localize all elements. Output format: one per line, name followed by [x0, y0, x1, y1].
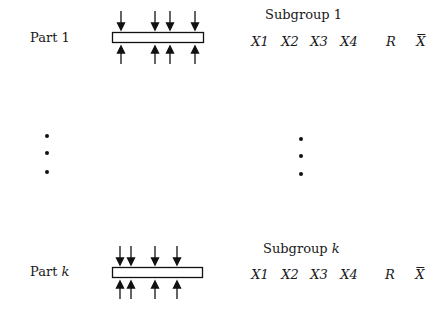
subgroup-k-col-range: R — [385, 267, 395, 282]
ellipsis-left-dot-3 — [45, 170, 49, 174]
subgroup-k-col-x1: X1 — [251, 267, 269, 282]
subgroup-1-col-range: R — [386, 34, 396, 49]
part-1-bar — [113, 33, 204, 43]
part-1-label-text: Part — [30, 30, 57, 45]
subgroup-1-title-text: Subgroup — [265, 7, 330, 22]
subgroup-k-col-xbar: X — [415, 267, 424, 282]
subgroup-k-index: k — [332, 241, 340, 256]
part-k-label: Part k — [30, 264, 69, 279]
part-k-down-arrows — [117, 246, 181, 265]
part-k-bar-group — [113, 246, 203, 299]
xbar-symbol: X — [416, 34, 425, 49]
part-1-up-arrows — [118, 46, 199, 64]
ellipsis-left-dot-1 — [45, 134, 49, 138]
ellipsis-left-dot-2 — [45, 151, 49, 155]
xbar-symbol: X — [415, 267, 424, 282]
subgroup-k-title-text: Subgroup — [263, 241, 328, 256]
part-k-up-arrows — [117, 281, 181, 299]
part-k-label-text: Part — [30, 264, 57, 279]
ellipsis-right-dot-2 — [299, 154, 303, 158]
subgroup-k-title: Subgroup k — [263, 241, 340, 256]
part-1-bar-group — [113, 11, 204, 64]
ellipsis-right-dot-3 — [299, 172, 303, 176]
subgroup-1-col-x2: X2 — [281, 34, 299, 49]
subgroup-k-col-x3: X3 — [310, 267, 328, 282]
subgroup-1-index: 1 — [334, 7, 342, 22]
subgroup-1-title: Subgroup 1 — [265, 7, 342, 22]
subgroup-1-col-x3: X3 — [310, 34, 328, 49]
part-k-bar — [113, 268, 203, 278]
part-k-index: k — [62, 264, 70, 279]
subgroup-1-col-x4: X4 — [340, 34, 358, 49]
subgroup-1-col-x1: X1 — [251, 34, 269, 49]
subgroup-k-col-x4: X4 — [340, 267, 358, 282]
subgroup-k-col-x2: X2 — [281, 267, 299, 282]
ellipsis-right-dot-1 — [299, 137, 303, 141]
subgroup-1-col-xbar: X — [416, 34, 425, 49]
part-1-index: 1 — [62, 30, 70, 45]
part-1-down-arrows — [118, 11, 199, 30]
part-1-label: Part 1 — [30, 30, 70, 45]
